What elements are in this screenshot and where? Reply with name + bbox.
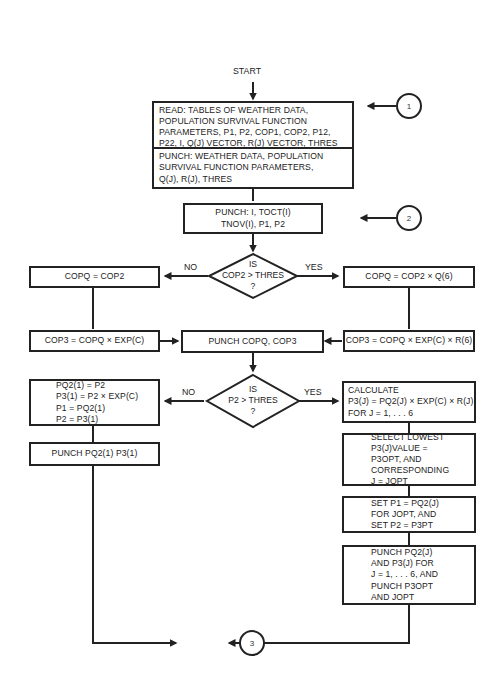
start-label: START xyxy=(233,66,261,76)
calculate-line-1: CALCULATE xyxy=(348,385,474,396)
select-lowest-line-1: SELECT LOWEST xyxy=(371,432,474,443)
read-line-2: POPULATION SURVIVAL FUNCTION xyxy=(159,116,352,127)
copq-cop2-box: COPQ = COP2 xyxy=(29,266,160,288)
punch-final-line-1: PUNCH PQ2(J) xyxy=(371,547,474,558)
select-lowest-line-3: P3OPT, AND xyxy=(371,454,474,465)
flowchart-canvas: START READ: TABLES OF WEATHER DATA, POPU… xyxy=(0,0,504,690)
punch-toct-line-2: TNOV(I), P1, P2 xyxy=(221,219,285,230)
cop3-exp-text: COP3 = COPQ × EXP(C) xyxy=(45,335,144,346)
read-line-1: READ: TABLES OF WEATHER DATA, xyxy=(159,105,352,116)
cop3-exp-box: COP3 = COPQ × EXP(C) xyxy=(29,330,160,352)
punch-pq2-1-text: PUNCH PQ2(1) P3(1) xyxy=(52,448,138,459)
punch-toct-box: PUNCH: I, TOCT(I) TNOV(I), P1, P2 xyxy=(183,203,323,234)
punch-pq2-1-box: PUNCH PQ2(1) P3(1) xyxy=(29,442,160,466)
decision-p2-line-3: ? xyxy=(228,406,277,417)
set-p1-line-3: SET P2 = P3PT xyxy=(371,520,474,531)
select-lowest-box: SELECT LOWEST P3(J)VALUE = P3OPT, AND CO… xyxy=(342,433,476,486)
punch-copq-text: PUNCH COPQ, COP3 xyxy=(208,336,296,347)
punch-weather-line-3: Q(J), R(J), THRES xyxy=(159,174,352,185)
calculate-line-3: FOR J = 1, . . . 6 xyxy=(348,408,474,419)
punch-copq-box: PUNCH COPQ, COP3 xyxy=(181,330,324,353)
decision-p2-line-1: IS xyxy=(228,384,277,395)
copq-cop2-q6-box: COPQ = COP2 × Q(6) xyxy=(343,266,475,288)
decision-cop2-yes-label: YES xyxy=(305,262,323,272)
calculate-box: CALCULATE P3(J) = PQ2(J) × EXP(C) × R(J)… xyxy=(342,381,476,423)
select-lowest-line-5: J = JOPT xyxy=(371,476,474,487)
pq2-assign-line-2: P3(1) = P2 × EXP(C) xyxy=(56,391,158,402)
punch-final-box: PUNCH PQ2(J) AND P3(J) FOR J = 1, . . . … xyxy=(342,545,476,605)
punch-final-line-3: J = 1, . . . 6, AND xyxy=(371,569,474,580)
connector-2: 2 xyxy=(396,205,422,231)
punch-weather-line-1: PUNCH: WEATHER DATA, POPULATION xyxy=(159,151,352,162)
punch-final-line-5: AND JOPT xyxy=(371,592,474,603)
connector-1: 1 xyxy=(396,93,422,119)
select-lowest-line-2: P3(J)VALUE = xyxy=(371,443,474,454)
decision-p2-text: IS P2 > THRES ? xyxy=(228,384,277,417)
decision-cop2-line-2: COP2 > THRES xyxy=(222,270,284,281)
set-p1-line-2: FOR JOPT, AND xyxy=(371,509,474,520)
decision-cop2-no-label: NO xyxy=(184,262,197,272)
select-lowest-line-4: CORRESPONDING xyxy=(371,465,474,476)
decision-p2-line-2: P2 > THRES xyxy=(228,395,277,406)
punch-final-line-2: AND P3(J) FOR xyxy=(371,558,474,569)
calculate-line-2: P3(J) = PQ2(J) × EXP(C) × R(J) xyxy=(348,396,474,407)
decision-cop2-text: IS COP2 > THRES ? xyxy=(222,259,284,292)
pq2-assign-line-1: PQ2(1) = P2 xyxy=(56,380,158,391)
punch-weather-line-2: SURVIVAL FUNCTION PARAMETERS, xyxy=(159,162,352,173)
pq2-assign-line-3: P1 = PQ2(1) xyxy=(56,403,158,414)
decision-cop2-line-1: IS xyxy=(222,259,284,270)
set-p1-line-1: SET P1 = PQ2(J) xyxy=(371,498,474,509)
pq2-assign-line-4: P2 = P3(1) xyxy=(56,414,158,425)
punch-final-line-4: PUNCH P3OPT xyxy=(371,581,474,592)
set-p1-box: SET P1 = PQ2(J) FOR JOPT, AND SET P2 = P… xyxy=(342,496,476,533)
read-process-box: READ: TABLES OF WEATHER DATA, POPULATION… xyxy=(152,101,354,153)
decision-p2-no-label: NO xyxy=(182,387,195,397)
connector-3: 3 xyxy=(239,630,265,656)
copq-cop2-text: COPQ = COP2 xyxy=(65,271,125,282)
cop3-exp-r6-text: COP3 = COPQ × EXP(C) × R(6) xyxy=(346,335,473,346)
punch-weather-box: PUNCH: WEATHER DATA, POPULATION SURVIVAL… xyxy=(152,147,354,189)
read-line-3: PARAMETERS, P1, P2, COP1, COP2, P12, xyxy=(159,127,352,138)
copq-cop2-q6-text: COPQ = COP2 × Q(6) xyxy=(365,271,452,282)
decision-p2-yes-label: YES xyxy=(304,387,322,397)
cop3-exp-r6-box: COP3 = COPQ × EXP(C) × R(6) xyxy=(343,330,475,352)
decision-cop2-line-3: ? xyxy=(222,281,284,292)
punch-toct-line-1: PUNCH: I, TOCT(I) xyxy=(215,207,290,218)
pq2-assign-box: PQ2(1) = P2 P3(1) = P2 × EXP(C) P1 = PQ2… xyxy=(29,379,160,426)
